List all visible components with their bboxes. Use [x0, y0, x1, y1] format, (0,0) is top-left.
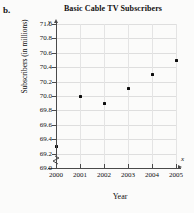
y-axis-tick [52, 125, 57, 126]
panel-label: b. [3, 5, 10, 15]
x-axis-title: Year [50, 192, 190, 201]
x-axis-tick [176, 164, 177, 169]
y-axis-tick [52, 110, 57, 111]
gridline-vertical [128, 24, 129, 168]
gridline-vertical [104, 24, 105, 168]
x-axis-line [48, 168, 181, 169]
x-axis-tick [104, 164, 105, 169]
gridline-horizontal [56, 38, 176, 39]
gridline-vertical [152, 24, 153, 168]
y-axis-tick-label-wrap: 70.2 [22, 78, 52, 86]
gridline-horizontal [56, 24, 176, 25]
y-axis-tick-label: 70.0 [26, 92, 52, 100]
gridline-horizontal [56, 53, 176, 54]
y-axis-tick [52, 96, 57, 97]
y-axis-tick-label-wrap: 69.8 [22, 106, 52, 114]
y-axis-tick [52, 38, 57, 39]
gridline-horizontal [56, 125, 176, 126]
y-axis-tick-label: 69.4 [26, 135, 52, 143]
gridline-vertical [176, 24, 177, 168]
figure: b. Basic Cable TV Subscribers Subscriber… [0, 0, 194, 213]
gridline-horizontal [56, 154, 176, 155]
y-axis-tick-label: 70.4 [26, 63, 52, 71]
y-axis-arrow [54, 19, 58, 23]
y-axis-tick [52, 67, 57, 68]
y-axis-tick-label: 71.0 [26, 20, 52, 28]
data-point [127, 87, 130, 90]
x-axis-tick-label: 2005 [163, 171, 189, 179]
data-point [79, 95, 82, 98]
x-axis-tick-label: 2000 [43, 171, 69, 179]
y-axis-tick-label-wrap: 70.6 [22, 49, 52, 57]
x-axis-tick-label: 2001 [67, 171, 93, 179]
y-axis-tick-label-wrap: 69.4 [22, 135, 52, 143]
y-axis-tick [52, 154, 57, 155]
gridline-horizontal [56, 96, 176, 97]
gridline-horizontal [56, 67, 176, 68]
gridline-horizontal [56, 110, 176, 111]
x-axis-variable-label: x [181, 155, 184, 163]
y-axis-tick-label-wrap: 70.0 [22, 92, 52, 100]
data-point [175, 59, 178, 62]
y-axis-tick [52, 82, 57, 83]
gridline-horizontal [56, 82, 176, 83]
y-axis-tick-label-wrap: 69.2 [22, 150, 52, 158]
y-axis-tick [52, 139, 57, 140]
y-axis-tick-label: 69.6 [26, 121, 52, 129]
x-axis-tick [128, 164, 129, 169]
data-point [151, 73, 154, 76]
y-axis-tick-label-wrap: 69.6 [22, 121, 52, 129]
y-axis-tick-label: 69.8 [26, 106, 52, 114]
data-point [103, 102, 106, 105]
y-axis-tick-label-wrap: 70.4 [22, 63, 52, 71]
gridline-horizontal [56, 139, 176, 140]
plot-area [56, 24, 176, 168]
y-axis-tick [52, 24, 57, 25]
y-axis-tick-label-wrap: 70.8 [22, 34, 52, 42]
y-axis-tick-label: 70.6 [26, 49, 52, 57]
x-axis-arrow [178, 165, 182, 169]
chart-title: Basic Cable TV Subscribers [38, 4, 188, 13]
y-axis-tick-label: 69.2 [26, 150, 52, 158]
x-axis-tick [56, 164, 57, 169]
y-axis-tick-label: 70.8 [26, 34, 52, 42]
x-axis-tick [80, 164, 81, 169]
y-axis-tick [52, 53, 57, 54]
x-axis-tick-label: 2004 [139, 171, 165, 179]
x-axis-tick-label: 2003 [115, 171, 141, 179]
y-axis-tick-label-wrap: 71.0 [22, 20, 52, 28]
x-axis-tick-label: 2002 [91, 171, 117, 179]
x-axis-tick [152, 164, 153, 169]
y-axis-tick-label: 70.2 [26, 78, 52, 86]
